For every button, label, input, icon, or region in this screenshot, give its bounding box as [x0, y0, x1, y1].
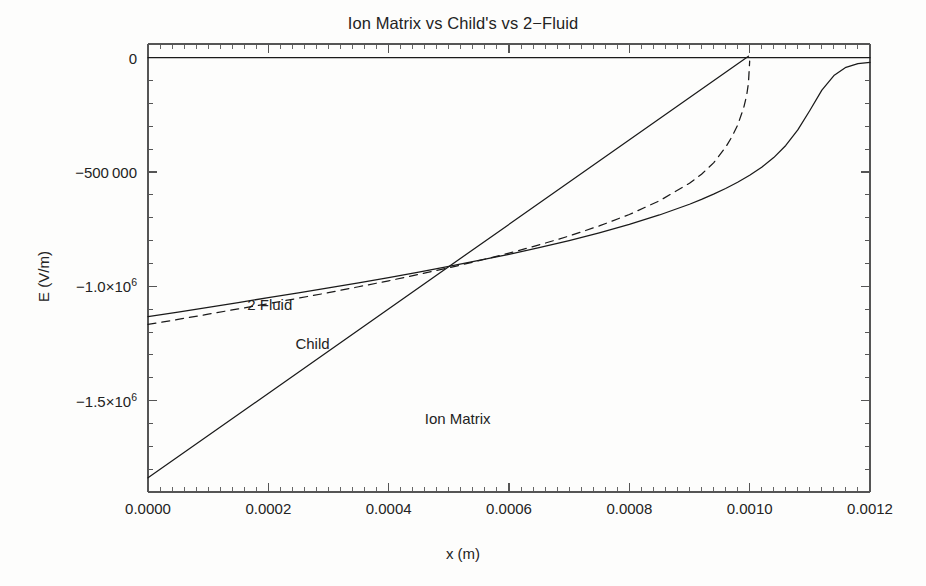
- plot-frame: [148, 44, 870, 492]
- curve-child: [148, 61, 750, 324]
- curve-ion-matrix: [148, 56, 748, 478]
- plot-area: [0, 0, 926, 586]
- curve-2-fluid: [148, 62, 870, 316]
- axis-ticks: [148, 44, 870, 492]
- figure-container: Ion Matrix vs Child's vs 2−Fluid E (V/m)…: [0, 0, 926, 586]
- data-curves: [148, 56, 870, 478]
